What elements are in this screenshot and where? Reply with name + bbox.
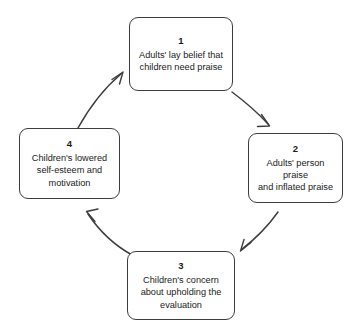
- arrow-2-to-3: [241, 212, 279, 251]
- cycle-node-3: 3 Children's concern about upholding the…: [127, 251, 235, 320]
- cycle-diagram: 1 Adults' lay belief that children need …: [0, 0, 363, 331]
- arrow-4-to-1: [78, 72, 123, 128]
- cycle-node-2-number: 2: [293, 143, 298, 155]
- cycle-node-4: 4 Children's lowered self-esteem and mot…: [19, 128, 120, 199]
- cycle-node-2: 2 Adults' person praise and inflated pra…: [248, 133, 343, 203]
- cycle-node-4-text: Children's lowered self-esteem and motiv…: [27, 152, 112, 189]
- cycle-node-1-text: Adults' lay belief that children need pr…: [134, 49, 228, 73]
- cycle-node-2-text: Adults' person praise and inflated prais…: [249, 157, 342, 194]
- cycle-node-4-number: 4: [67, 138, 72, 150]
- cycle-node-3-text: Children's concern about upholding the e…: [136, 274, 227, 311]
- arrow-3-to-4: [87, 209, 133, 255]
- cycle-node-1: 1 Adults' lay belief that children need …: [129, 17, 233, 91]
- cycle-node-1-number: 1: [178, 35, 183, 47]
- arrow-1-to-2: [232, 92, 270, 127]
- cycle-node-3-number: 3: [178, 260, 183, 272]
